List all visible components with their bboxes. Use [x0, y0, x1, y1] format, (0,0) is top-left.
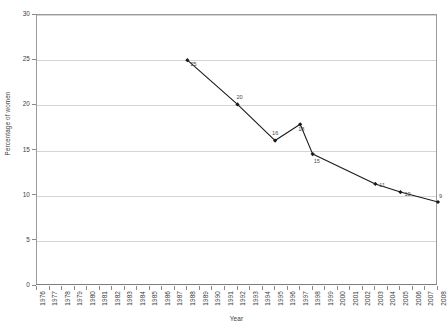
- y-axis-title: Percentage of women: [4, 64, 11, 184]
- x-axis-tick-label: 1983: [126, 291, 133, 306]
- x-axis-tick-mark: [36, 286, 37, 290]
- x-axis-tick-mark: [362, 286, 363, 290]
- series-line-chart: [37, 15, 438, 286]
- data-point-label: 18: [298, 127, 304, 133]
- x-axis-tick-label: 1979: [76, 291, 83, 306]
- x-axis-tick-label: 2000: [339, 291, 346, 306]
- x-axis-tick-mark: [387, 286, 388, 290]
- x-axis-tick-mark: [149, 286, 150, 290]
- x-axis-tick-mark: [349, 286, 350, 290]
- y-axis-tick-label: 25: [23, 54, 30, 64]
- plot-area: 252016181511109: [36, 14, 437, 285]
- x-axis-tick-mark: [399, 286, 400, 290]
- data-point-label: 25: [190, 62, 196, 68]
- x-axis-tick-mark: [124, 286, 125, 290]
- x-axis-tick-label: 1984: [139, 291, 146, 306]
- x-axis-tick-mark: [437, 286, 438, 290]
- x-axis-tick-label: 1989: [202, 291, 209, 306]
- x-axis-tick-label: 2006: [415, 291, 422, 306]
- x-axis-title: Year: [36, 315, 437, 322]
- x-axis-tick-mark: [424, 286, 425, 290]
- y-axis-tick-label: 10: [23, 190, 30, 200]
- y-axis-tick: 10: [0, 190, 36, 200]
- x-axis-tick-label: 1977: [51, 291, 58, 306]
- x-axis-tick-label: 2003: [377, 291, 384, 306]
- x-axis-tick-label: 2004: [389, 291, 396, 306]
- x-axis-tick-label: 2008: [440, 291, 447, 306]
- series-markers: [185, 58, 440, 204]
- x-axis-tick-mark: [324, 286, 325, 290]
- x-axis-tick-mark: [224, 286, 225, 290]
- x-axis-tick-label: 1998: [314, 291, 321, 306]
- data-point-label: 11: [379, 183, 385, 189]
- x-axis-tick-label: 1995: [277, 291, 284, 306]
- x-axis-tick-mark: [61, 286, 62, 290]
- x-axis-tick-mark: [262, 286, 263, 290]
- data-point-label: 20: [237, 95, 243, 101]
- x-axis-tick-label: 1985: [151, 291, 158, 306]
- x-axis-tick-mark: [174, 286, 175, 290]
- x-axis-tick-label: 1976: [39, 291, 46, 306]
- x-axis-tick-label: 1988: [189, 291, 196, 306]
- x-axis-tick-label: 1994: [264, 291, 271, 306]
- data-point-label: 15: [314, 159, 320, 165]
- y-axis-tick-label: 5: [26, 235, 30, 245]
- data-point-marker: [436, 200, 440, 204]
- y-axis-tick: 5: [0, 235, 36, 245]
- data-point-marker: [373, 182, 377, 186]
- x-axis-tick-label: 1999: [327, 291, 334, 306]
- x-axis-tick-label: 1997: [302, 291, 309, 306]
- x-axis-tick-mark: [161, 286, 162, 290]
- x-axis-tick-label: 2001: [352, 291, 359, 306]
- x-axis-tick-mark: [412, 286, 413, 290]
- x-axis-tick-mark: [211, 286, 212, 290]
- y-axis-tick: 0: [0, 280, 36, 290]
- x-axis-tick-mark: [186, 286, 187, 290]
- series-polyline: [187, 60, 438, 202]
- x-axis-tick-mark: [136, 286, 137, 290]
- x-axis-tick-label: 2007: [427, 291, 434, 306]
- x-axis-tick-label: 1993: [252, 291, 259, 306]
- x-axis-tick-label: 1996: [289, 291, 296, 306]
- chart-figure: 051015202530 Percentage of women 2520161…: [0, 0, 447, 332]
- data-point-label: 16: [272, 131, 278, 137]
- x-axis-tick-mark: [337, 286, 338, 290]
- data-point-label: 9: [439, 194, 442, 200]
- x-axis-tick-label: 1987: [176, 291, 183, 306]
- x-axis-tick-mark: [299, 286, 300, 290]
- x-axis-tick-mark: [99, 286, 100, 290]
- x-axis-tick-label: 1986: [164, 291, 171, 306]
- y-axis-tick-label: 30: [23, 9, 30, 19]
- x-axis-tick-label: 1990: [214, 291, 221, 306]
- x-axis-tick-label: 2002: [364, 291, 371, 306]
- x-axis-tick-label: 1991: [227, 291, 234, 306]
- y-axis-tick-label: 15: [23, 145, 30, 155]
- x-axis-tick-label: 1978: [64, 291, 71, 306]
- x-axis-tick-mark: [287, 286, 288, 290]
- x-axis-tick-label: 1981: [101, 291, 108, 306]
- data-point-label: 10: [404, 192, 410, 198]
- y-axis-tick: 30: [0, 9, 36, 19]
- data-point-marker: [398, 190, 402, 194]
- x-axis-tick-label: 1992: [239, 291, 246, 306]
- x-axis-tick-mark: [312, 286, 313, 290]
- x-axis-tick-mark: [374, 286, 375, 290]
- x-axis-tick-mark: [249, 286, 250, 290]
- x-axis-tick-mark: [86, 286, 87, 290]
- x-axis-tick-mark: [199, 286, 200, 290]
- x-axis-tick-mark: [237, 286, 238, 290]
- x-axis-tick-mark: [49, 286, 50, 290]
- x-axis-tick-label: 1982: [114, 291, 121, 306]
- x-axis-tick-mark: [111, 286, 112, 290]
- data-point-marker: [311, 152, 315, 156]
- x-axis-tick-mark: [74, 286, 75, 290]
- x-axis-tick-label: 1980: [89, 291, 96, 306]
- x-axis-tick-label: 2005: [402, 291, 409, 306]
- y-axis-tick-label: 20: [23, 99, 30, 109]
- y-axis-tick-label: 0: [26, 280, 30, 290]
- x-axis-tick-mark: [274, 286, 275, 290]
